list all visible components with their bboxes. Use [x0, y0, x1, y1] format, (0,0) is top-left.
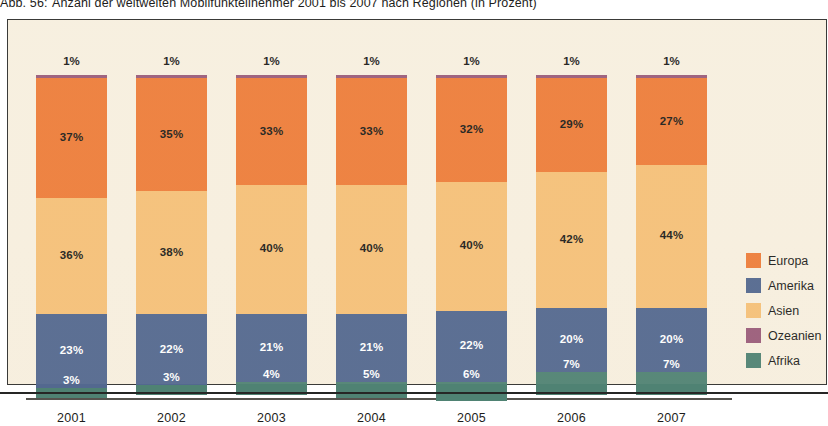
plot-area: 1%37%36%23%3%20011%35%38%22%3%20021%33%4… — [16, 41, 728, 405]
figure-title: Anzahl der weltweiten Mobilfunkteilnehme… — [52, 0, 537, 10]
legend-swatch-europa — [746, 253, 761, 268]
stacked-bar-2006[interactable]: 29%42%20%7% — [536, 75, 607, 398]
segment-label-europa-2003: 33% — [236, 125, 307, 137]
segment-asien-2001[interactable]: 36% — [36, 198, 107, 314]
stacked-bar-2003[interactable]: 33%40%21%4% — [236, 75, 307, 398]
segment-asien-2006[interactable]: 42% — [536, 172, 607, 308]
segment-asien-2007[interactable]: 44% — [636, 165, 707, 307]
segment-asien-2002[interactable]: 38% — [136, 191, 207, 314]
segment-amerika-2003[interactable]: 21% — [236, 314, 307, 382]
segment-label-asien-2002: 38% — [136, 246, 207, 258]
bottom-rule — [0, 392, 828, 394]
legend-item-amerika[interactable]: Amerika — [746, 273, 828, 298]
segment-label-asien-2001: 36% — [36, 249, 107, 261]
legend-item-europa[interactable]: Europa — [746, 248, 828, 273]
segment-label-ozeanien-2006: 1% — [536, 55, 607, 67]
segment-label-amerika-2007: 20% — [636, 333, 707, 345]
legend-swatch-afrika — [746, 353, 761, 368]
segment-europa-2004[interactable]: 33% — [336, 78, 407, 185]
segment-label-ozeanien-2005: 1% — [436, 55, 507, 67]
segment-label-europa-2002: 35% — [136, 128, 207, 140]
segment-label-ozeanien-2002: 1% — [136, 55, 207, 67]
legend-label-afrika: Afrika — [768, 354, 800, 368]
figure-caption: Abb. 56: Anzahl der weltweiten Mobilfunk… — [0, 0, 828, 16]
stacked-bar-2001[interactable]: 37%36%23%3% — [36, 75, 107, 398]
segment-amerika-2004[interactable]: 21% — [336, 314, 407, 382]
segment-amerika-2006[interactable]: 20% — [536, 308, 607, 373]
stacked-bar-2007[interactable]: 27%44%20%7% — [636, 75, 707, 398]
segment-amerika-2007[interactable]: 20% — [636, 308, 707, 373]
x-tick-label-2005: 2005 — [430, 411, 513, 425]
segment-europa-2007[interactable]: 27% — [636, 78, 707, 165]
legend-swatch-amerika — [746, 278, 761, 293]
x-tick-label-2002: 2002 — [130, 411, 213, 425]
chart-frame: 1%37%36%23%3%20011%35%38%22%3%20021%33%4… — [7, 19, 827, 385]
chart-legend: EuropaAmerikaAsienOzeanienAfrika — [746, 248, 828, 373]
segment-europa-2001[interactable]: 37% — [36, 78, 107, 198]
segment-label-europa-2005: 32% — [436, 123, 507, 135]
segment-label-amerika-2005: 22% — [436, 339, 507, 351]
legend-item-afrika[interactable]: Afrika — [746, 348, 828, 373]
segment-label-ozeanien-2003: 1% — [236, 55, 307, 67]
segment-afrika-2004[interactable]: 5% — [336, 382, 407, 398]
segment-amerika-2002[interactable]: 22% — [136, 314, 207, 385]
segment-europa-2002[interactable]: 35% — [136, 78, 207, 191]
segment-asien-2005[interactable]: 40% — [436, 182, 507, 311]
segment-label-ozeanien-2007: 1% — [636, 55, 707, 67]
segment-europa-2005[interactable]: 32% — [436, 78, 507, 181]
stacked-bar-2005[interactable]: 32%40%22%6% — [436, 75, 507, 398]
segment-label-europa-2001: 37% — [36, 131, 107, 143]
figure-number: Abb. 56: — [0, 0, 48, 10]
x-axis-line — [26, 398, 732, 400]
legend-swatch-ozeanien — [746, 328, 761, 343]
segment-label-amerika-2002: 22% — [136, 343, 207, 355]
segment-label-europa-2006: 29% — [536, 118, 607, 130]
segment-label-ozeanien-2001: 1% — [36, 55, 107, 67]
x-tick-label-2004: 2004 — [330, 411, 413, 425]
legend-label-ozeanien: Ozeanien — [768, 329, 822, 343]
x-tick-label-2007: 2007 — [630, 411, 713, 425]
segment-label-amerika-2003: 21% — [236, 341, 307, 353]
legend-swatch-asien — [746, 303, 761, 318]
segment-label-asien-2006: 42% — [536, 233, 607, 245]
legend-items: EuropaAmerikaAsienOzeanienAfrika — [746, 248, 828, 373]
legend-label-amerika: Amerika — [768, 279, 814, 293]
stacked-bar-2004[interactable]: 33%40%21%5% — [336, 75, 407, 398]
segment-label-amerika-2001: 23% — [36, 344, 107, 356]
segment-asien-2004[interactable]: 40% — [336, 185, 407, 314]
segment-label-amerika-2004: 21% — [336, 341, 407, 353]
segment-label-asien-2003: 40% — [236, 242, 307, 254]
segment-label-ozeanien-2004: 1% — [336, 55, 407, 67]
segment-amerika-2005[interactable]: 22% — [436, 311, 507, 382]
x-tick-label-2006: 2006 — [530, 411, 613, 425]
legend-item-ozeanien[interactable]: Ozeanien — [746, 323, 828, 348]
x-tick-label-2003: 2003 — [230, 411, 313, 425]
segment-label-asien-2004: 40% — [336, 242, 407, 254]
legend-label-asien: Asien — [768, 304, 799, 318]
segment-amerika-2001[interactable]: 23% — [36, 314, 107, 388]
segment-label-asien-2005: 40% — [436, 239, 507, 251]
segment-label-europa-2007: 27% — [636, 115, 707, 127]
legend-item-asien[interactable]: Asien — [746, 298, 828, 323]
segment-europa-2006[interactable]: 29% — [536, 78, 607, 172]
segment-label-europa-2004: 33% — [336, 125, 407, 137]
x-tick-label-2001: 2001 — [30, 411, 113, 425]
segment-label-asien-2007: 44% — [636, 229, 707, 241]
segment-asien-2003[interactable]: 40% — [236, 185, 307, 314]
segment-label-amerika-2006: 20% — [536, 333, 607, 345]
stacked-bar-2002[interactable]: 35%38%22%3% — [136, 75, 207, 398]
legend-label-europa: Europa — [768, 254, 808, 268]
segment-europa-2003[interactable]: 33% — [236, 78, 307, 185]
